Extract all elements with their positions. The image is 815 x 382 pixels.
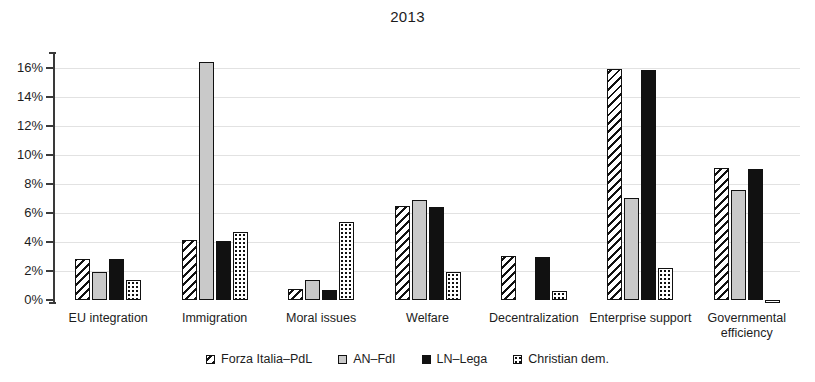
y-axis-tick [46,299,53,301]
bar[interactable] [607,69,622,300]
x-axis-label: Decentralization [474,311,594,326]
y-axis-cap-top [49,52,56,54]
swatch-black-icon [422,355,431,364]
x-axis-label: Governmental efficiency [687,311,807,341]
bar[interactable] [765,300,780,303]
bar-group [607,56,673,300]
y-axis-tick [46,183,53,185]
y-axis-tick-label: 0% [0,292,43,307]
bar[interactable] [731,190,746,300]
legend-label: Forza Italia–PdL [221,352,312,366]
legend-item[interactable]: Forza Italia–PdL [206,352,312,366]
y-axis-tick-label: 6% [0,205,43,220]
plot-area [55,56,800,300]
x-axis-label: Enterprise support [580,311,700,326]
bar-group [501,56,567,300]
bar[interactable] [501,256,516,300]
bar[interactable] [339,222,354,300]
bar[interactable] [412,200,427,300]
y-axis-tick [46,270,53,272]
legend-item[interactable]: AN–FdI [338,352,395,366]
bar[interactable] [288,289,303,300]
y-axis-tick [46,154,53,156]
y-axis-cap-bottom [49,302,56,304]
bar[interactable] [305,280,320,300]
x-axis-label: Moral issues [261,311,381,326]
bar[interactable] [199,62,214,300]
bar[interactable] [429,207,444,300]
y-axis-tick-label: 12% [0,118,43,133]
bar[interactable] [395,206,410,300]
bar[interactable] [109,259,124,300]
bar-group [714,56,780,300]
bar[interactable] [322,290,337,300]
y-axis-tick-label: 8% [0,176,43,191]
legend-label: AN–FdI [353,352,395,366]
bar[interactable] [75,259,90,300]
bar[interactable] [182,240,197,300]
bar[interactable] [658,268,673,300]
bar-group [182,56,248,300]
bar[interactable] [714,168,729,300]
legend-label: LN–Lega [437,352,488,366]
bar[interactable] [126,280,141,300]
y-axis-tick-label: 16% [0,60,43,75]
y-axis-tick-label: 2% [0,263,43,278]
y-axis-tick-label: 14% [0,89,43,104]
y-axis-tick [46,125,53,127]
swatch-hatched-icon [206,355,215,364]
bar-group [288,56,354,300]
bar[interactable] [233,232,248,300]
chart-title: 2013 [0,8,815,25]
y-axis-tick-label: 4% [0,234,43,249]
bar-group [75,56,141,300]
bar[interactable] [92,272,107,300]
bar[interactable] [216,241,231,300]
y-axis-tick [46,67,53,69]
bar[interactable] [446,272,461,300]
x-axis-label: Welfare [368,311,488,326]
y-axis-tick [46,96,53,98]
legend-item[interactable]: LN–Lega [422,352,488,366]
legend-label: Christian dem. [528,352,609,366]
bar[interactable] [748,169,763,300]
bar[interactable] [535,257,550,300]
bar-group [395,56,461,300]
x-axis-label: EU integration [48,311,168,326]
y-axis-tick-label: 10% [0,147,43,162]
y-axis-tick [46,212,53,214]
bar[interactable] [641,70,656,300]
bar[interactable] [624,198,639,300]
x-axis-label: Immigration [155,311,275,326]
legend-item[interactable]: Christian dem. [513,352,609,366]
bar[interactable] [552,291,567,300]
chart-legend: Forza Italia–PdLAN–FdILN–LegaChristian d… [0,352,815,366]
swatch-grey-icon [338,355,347,364]
swatch-dotted-icon [513,355,522,364]
bar-chart: 2013 0%2%4%6%8%10%12%14%16% EU integrati… [0,0,815,382]
y-axis-tick [46,241,53,243]
